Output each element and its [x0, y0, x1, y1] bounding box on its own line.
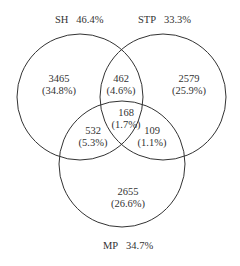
region-sh-mp: 532(5.3%): [79, 125, 108, 149]
set-label-sh: SH 46.4%: [55, 14, 103, 26]
set-label-mp-bottom: MP 34.7%: [103, 240, 153, 252]
region-all: 168(1.7%): [112, 107, 141, 131]
region-stp-only: 2579(25.9%): [172, 73, 206, 97]
venn-diagram: [0, 0, 240, 266]
region-stp-mp: 109(1.1%): [138, 125, 167, 149]
region-mp-only: 2655(26.6%): [111, 186, 145, 210]
region-sh-only: 3465(34.8%): [42, 73, 76, 97]
region-sh-stp: 462(4.6%): [107, 73, 136, 97]
set-label-stp: STP 33.3%: [138, 14, 191, 26]
